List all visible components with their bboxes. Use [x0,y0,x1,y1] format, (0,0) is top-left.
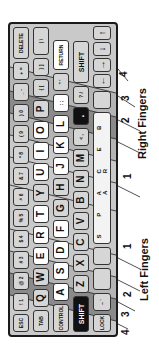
right-finger-3: 3 [120,95,131,101]
finger-labels: 4 3 2 1 1 2 3 4 Left Fingers Right Finge… [0,0,159,359]
keyboard-diagram-stage: ESC ! 1 @ 2 # 3 $ 4 % 5 ^ 6 & 7 * 8 ( 9 … [0,0,159,359]
left-finger-4: 4 [120,329,131,335]
right-finger-1: 1 [122,173,133,179]
left-finger-2: 2 [122,291,133,297]
left-finger-1: 1 [122,243,133,249]
right-finger-2: 2 [120,117,131,123]
right-fingers-label: Right Fingers [136,88,148,159]
left-finger-3: 3 [120,311,131,317]
right-finger-4: 4 [118,71,129,77]
left-fingers-label: Left Fingers [138,238,150,301]
